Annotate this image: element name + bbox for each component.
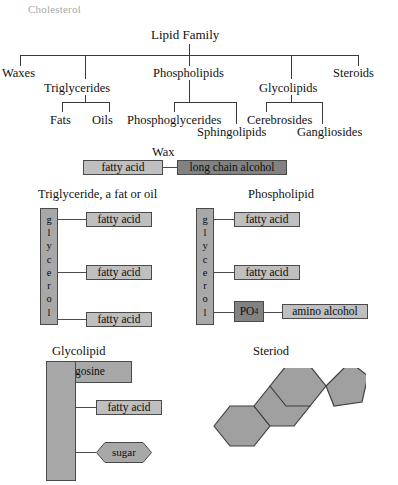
triglyceride-fatty-acid-3: fatty acid [86,312,152,327]
tree-stem-triglycerides [85,95,86,102]
tree-drop-phospholipids [189,55,190,66]
glycerol-letter: l [204,228,207,239]
tree-drop-cerebrosides [266,102,267,112]
tree-node-oils: Oils [92,114,113,127]
glycerol-letter: o [46,294,51,305]
tree-node-steroids: Steroids [333,67,374,80]
phosphate-subscript: 4 [254,308,258,316]
glycerol-letter: r [47,281,51,292]
triglyceride-connector-2 [58,272,86,273]
glycolipid-sugar-label: sugar [112,447,136,458]
tree-stem-glycolipids [291,95,292,102]
glycerol-letter: r [203,281,207,292]
triglyceride-fatty-acid-1: fatty acid [86,212,152,227]
phospholipid-connector-4 [264,312,282,313]
wax-long-chain-alcohol-box: long chain alcohol [177,160,287,175]
tree-rule-phospholipids [174,102,236,103]
glycolipid-fatty-acid-box: fatty acid [96,400,162,415]
tree-drop-sphingolipids [236,102,237,124]
glycerol-letter: c [47,255,52,266]
phospholipid-glycerol-backbone: g l y c e r o l [196,208,214,325]
tree-stem-phospholipids [189,80,190,102]
tree-drop-steroids [358,55,359,66]
triglyceride-connector-3 [58,319,86,320]
glycolipid-seam [47,362,75,383]
glycerol-letter: l [48,228,51,239]
glycerol-letter: l [204,308,207,319]
tree-rule-glycolipids [266,102,322,103]
tree-node-fats: Fats [50,114,71,127]
triglyceride-connector-1 [58,219,86,220]
glycerol-letter: g [46,215,51,226]
wax-fatty-acid-box: fatty acid [83,160,163,175]
phospholipid-fatty-acid-1: fatty acid [234,212,300,227]
glycolipid-title: Glycolipid [52,345,105,358]
wax-title: Wax [152,146,175,159]
wax-connector [163,167,177,168]
watermark-label: Cholesterol [28,3,81,15]
phospholipid-connector-1 [214,219,234,220]
phospholipid-title: Phospholipid [248,188,314,201]
glycerol-letter: c [203,255,208,266]
tree-drop-phosphoglycerides [174,102,175,112]
glycerol-letter: e [47,268,52,279]
glycerol-letter: e [203,268,208,279]
tree-node-sphingolipids: Sphingolipids [197,126,266,139]
glycerol-letter: y [202,241,207,252]
steroid-ring-system [206,368,366,468]
tree-drop-gangliosides [322,102,323,124]
tree-node-triglycerides: Triglycerides [44,82,110,95]
tree-root-stem [189,44,190,55]
tree-node-gangliosides: Gangliosides [297,126,362,139]
triglyceride-title: Triglyceride, a fat or oil [38,188,157,201]
tree-node-glycolipids: Glycolipids [259,82,317,95]
tree-drop-fats [62,102,63,112]
glycolipid-connector-2 [76,452,96,453]
lipid-family-figure: Cholesterol Lipid Family Waxes Triglycer… [0,0,398,485]
tree-node-waxes: Waxes [2,67,35,80]
glycerol-letter: y [46,241,51,252]
triglyceride-glycerol-backbone: g l y c e r o l [40,208,58,325]
glycerol-letter: g [202,215,207,226]
glycerol-letter: l [48,308,51,319]
tree-drop-oils [109,102,110,112]
glycerol-letter: o [202,294,207,305]
tree-root-label: Lipid Family [151,28,219,41]
glycolipid-sugar-hexagon: sugar [96,442,152,463]
tree-drop-waxes [20,55,21,66]
pentagon-ring-d [326,368,366,406]
tree-drop-glycolipids [291,55,292,79]
glycolipid-connector-1 [76,407,96,408]
triglyceride-fatty-acid-2: fatty acid [86,265,152,280]
phosphate-symbol: PO [240,306,255,318]
phospholipid-phosphate-box: PO4 [234,301,264,322]
phospholipid-connector-2 [214,272,234,273]
tree-rule-triglycerides [62,102,109,103]
tree-node-phospholipids: Phospholipids [153,67,224,80]
phospholipid-fatty-acid-2: fatty acid [234,265,300,280]
steroid-title: Steriod [253,345,289,358]
phospholipid-connector-3 [214,312,234,313]
phospholipid-amino-alcohol-box: amino alcohol [282,304,368,319]
tree-drop-triglycerides [85,55,86,79]
